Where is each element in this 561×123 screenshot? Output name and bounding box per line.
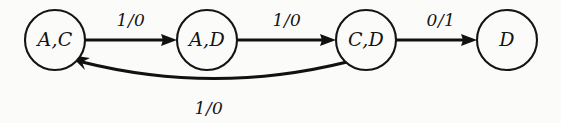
state-label-cd: C,D: [348, 28, 384, 50]
arrowhead-icon: [461, 34, 477, 46]
state-node-cd[interactable]: C,D: [336, 10, 396, 70]
state-label-ac: A,C: [35, 28, 72, 50]
arrowhead-icon: [320, 34, 336, 46]
state-label-ad: A,D: [187, 28, 225, 50]
edge-label-ac-ad: 1/0: [117, 10, 146, 30]
edge-label-cd-d: 0/1: [427, 10, 456, 30]
state-transition-diagram: 1/0 1/0 0/1 1/0 A,C A,D: [0, 0, 561, 123]
transition-cd-to-d: 0/1: [396, 10, 477, 46]
edge-label-ad-cd: 1/0: [273, 10, 302, 30]
arrowhead-icon: [161, 34, 177, 46]
state-node-d[interactable]: D: [477, 10, 537, 70]
state-label-d: D: [498, 28, 515, 50]
diagram-canvas: 1/0 1/0 0/1 1/0 A,C A,D: [0, 0, 561, 123]
state-node-ac[interactable]: A,C: [25, 10, 85, 70]
state-node-ad[interactable]: A,D: [177, 10, 237, 70]
edge-label-cd-ac: 1/0: [195, 98, 224, 118]
transition-ad-to-cd: 1/0: [237, 10, 336, 46]
transition-ac-to-ad: 1/0: [85, 10, 177, 46]
